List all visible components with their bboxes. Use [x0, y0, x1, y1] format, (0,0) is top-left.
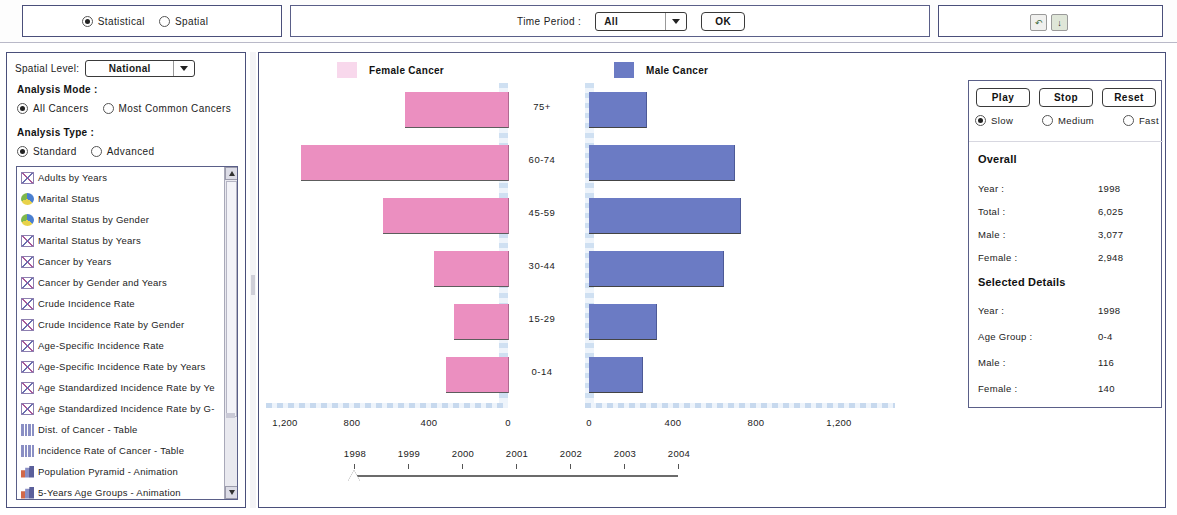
year-slider-track[interactable] — [352, 475, 678, 477]
bar-female[interactable] — [446, 357, 509, 393]
list-item-label: Population Pyramid - Animation — [38, 466, 178, 477]
chevron-down-icon[interactable] — [173, 61, 194, 76]
analysis-list-scrollbar[interactable] — [224, 167, 237, 499]
save-icon[interactable]: ↓ — [1051, 14, 1068, 31]
list-item[interactable]: Age-Specific Incidence Rate by Years — [17, 356, 225, 377]
stop-button[interactable]: Stop — [1039, 88, 1093, 107]
bar-male[interactable] — [589, 304, 657, 340]
stat-key: Female : — [978, 383, 1017, 394]
list-item[interactable]: Cancer by Years — [17, 251, 225, 272]
radio-statistical-dot — [82, 16, 93, 27]
radio-spatial[interactable]: Spatial — [159, 16, 208, 27]
spatial-level-row: Spatial Level: National — [15, 60, 239, 77]
bar-male[interactable] — [589, 92, 647, 128]
year-slider-thumb[interactable] — [348, 470, 360, 481]
radio-advanced-dot — [91, 146, 102, 157]
panel-divider-1 — [969, 141, 1163, 142]
application-window: Statistical Spatial Time Period : All OK… — [0, 0, 1177, 515]
top-toolbar: Statistical Spatial Time Period : All OK… — [0, 0, 1177, 43]
scroll-down-icon[interactable] — [225, 486, 238, 499]
list-item[interactable]: Cancer by Gender and Years — [17, 272, 225, 293]
bar-female[interactable] — [383, 198, 509, 234]
chevron-down-icon[interactable] — [665, 13, 686, 30]
spatial-level-label: Spatial Level: — [15, 63, 79, 74]
panel-splitter-grip[interactable] — [251, 275, 255, 295]
radio-advanced[interactable]: Advanced — [91, 146, 155, 157]
stat-row: Year :1998 — [978, 183, 1154, 194]
age-group-label: 60-74 — [509, 154, 575, 165]
slider-tick — [516, 464, 517, 469]
list-item[interactable]: 5-Years Age Groups - Animation — [17, 482, 225, 500]
spatial-level-select[interactable]: National — [85, 60, 195, 77]
list-item[interactable]: Marital Status by Gender — [17, 209, 225, 230]
list-item-label: Cancer by Years — [38, 256, 111, 267]
list-item-label: Crude Incidence Rate — [38, 298, 135, 309]
bar-female[interactable] — [301, 145, 509, 181]
reset-button[interactable]: Reset — [1102, 88, 1156, 107]
radio-most-common-cancers-label: Most Common Cancers — [119, 103, 232, 114]
analysis-list[interactable]: Adults by YearsMarital StatusMarital Sta… — [16, 166, 238, 500]
axis-tick-right: 800 — [733, 417, 779, 428]
year-slider[interactable]: 1998199920002001200220032004 — [334, 448, 694, 488]
stat-key: Male : — [978, 357, 1006, 368]
radio-statistical[interactable]: Statistical — [82, 16, 145, 27]
list-item[interactable]: Population Pyramid - Animation — [17, 461, 225, 482]
time-period-select[interactable]: All — [595, 12, 687, 31]
analysis-type-row: Standard Advanced — [17, 146, 168, 157]
people-chart-icon — [21, 235, 34, 247]
slider-tick — [462, 464, 463, 469]
bar-male[interactable] — [589, 251, 724, 287]
slider-year-label[interactable]: 2003 — [604, 448, 646, 459]
list-item[interactable]: Marital Status by Years — [17, 230, 225, 251]
age-group-label: 30-44 — [509, 260, 575, 271]
radio-most-common-cancers[interactable]: Most Common Cancers — [103, 103, 232, 114]
slider-year-label[interactable]: 1998 — [334, 448, 376, 459]
time-period-value: All — [596, 16, 665, 27]
radio-speed-medium[interactable]: Medium — [1042, 115, 1094, 126]
list-item[interactable]: Crude Incidence Rate by Gender — [17, 314, 225, 335]
stat-value: 0-4 — [1098, 331, 1154, 342]
people-chart-icon — [21, 361, 34, 373]
list-item[interactable]: Dist. of Cancer - Table — [17, 419, 225, 440]
ok-button[interactable]: OK — [701, 12, 745, 31]
list-item[interactable]: Age Standardized Incidence Rate by G- — [17, 398, 225, 419]
pie-chart-icon — [21, 193, 34, 205]
bar-female[interactable] — [405, 92, 509, 128]
radio-standard-dot — [17, 146, 28, 157]
bar-female[interactable] — [434, 251, 509, 287]
radio-speed-slow[interactable]: Slow — [975, 115, 1013, 126]
list-item-label: Cancer by Gender and Years — [38, 277, 167, 288]
scroll-up-icon[interactable] — [225, 167, 238, 180]
list-item[interactable]: Age Standardized Incidence Rate by Ye — [17, 377, 225, 398]
list-item[interactable]: Crude Incidence Rate — [17, 293, 225, 314]
age-group-label: 45-59 — [509, 207, 575, 218]
bar-male[interactable] — [589, 357, 643, 393]
people-chart-icon — [21, 340, 34, 352]
stat-value: 6,025 — [1098, 206, 1154, 217]
radio-all-cancers[interactable]: All Cancers — [17, 103, 89, 114]
baseline-left — [266, 403, 508, 408]
scrollbar-grip — [226, 413, 235, 418]
bar-male[interactable] — [589, 145, 735, 181]
radio-speed-fast[interactable]: Fast — [1123, 115, 1159, 126]
bar-female[interactable] — [454, 304, 509, 340]
age-group-label: 75+ — [509, 101, 575, 112]
slider-year-label[interactable]: 2002 — [550, 448, 592, 459]
stat-row: Age Group :0-4 — [978, 331, 1154, 342]
list-item[interactable]: Age-Specific Incidence Rate — [17, 335, 225, 356]
stat-value: 3,077 — [1098, 229, 1154, 240]
table-icon — [21, 445, 34, 457]
list-item[interactable]: Incidence Rate of Cancer - Table — [17, 440, 225, 461]
list-item[interactable]: Marital Status — [17, 188, 225, 209]
radio-standard[interactable]: Standard — [17, 146, 77, 157]
back-icon[interactable]: ↶ — [1030, 14, 1047, 31]
bar-male[interactable] — [589, 198, 741, 234]
slider-year-label[interactable]: 2000 — [442, 448, 484, 459]
slider-year-label[interactable]: 1999 — [388, 448, 430, 459]
scrollbar-thumb[interactable] — [226, 181, 237, 417]
analysis-scope-group: Statistical Spatial — [22, 5, 282, 37]
play-button[interactable]: Play — [976, 88, 1030, 107]
list-item[interactable]: Adults by Years — [17, 167, 225, 188]
slider-year-label[interactable]: 2004 — [658, 448, 700, 459]
slider-year-label[interactable]: 2001 — [496, 448, 538, 459]
